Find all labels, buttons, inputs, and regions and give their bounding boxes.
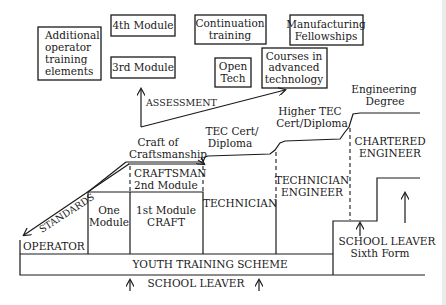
box-text: 4th Module: [112, 19, 173, 31]
cell-technician-engineer-label: TECHNICIAN: [275, 174, 349, 186]
box-text-line: operator: [45, 41, 92, 53]
box-text-line: Manufacturing: [286, 18, 366, 30]
box-text-line: Additional: [44, 29, 100, 41]
box-text-line: training: [45, 53, 88, 65]
assessment-label: ASSESSMENT: [145, 97, 217, 108]
career-progression-diagram: Additional operator training elements 4t…: [0, 0, 446, 305]
school-leaver-label: SCHOOL LEAVER: [148, 277, 246, 289]
cell-craftsman-label: 2nd Module: [134, 179, 198, 191]
box-text-line: advanced: [269, 61, 320, 73]
stage-label-engineering-degree: Degree: [366, 95, 405, 107]
cell-first-module-label: CRAFT: [147, 216, 185, 228]
cell-craftsman-label: CRAFTSMAN: [134, 167, 207, 179]
box-text-line: Open: [219, 60, 248, 72]
cell-first-module-label: 1st Module: [136, 204, 196, 216]
assessment-arrow: ASSESSMENT: [141, 89, 285, 127]
stage-label-tec-cert: Diploma: [208, 137, 252, 149]
box-text: 3rd Module: [112, 61, 174, 73]
cell-chartered-engineer-label: CHARTERED: [354, 135, 425, 147]
youth-training-scheme-label: YOUTH TRAINING SCHEME: [131, 258, 287, 270]
box-text-line: Continuation: [195, 17, 264, 29]
box-courses-advanced-technology: Courses in advanced technology: [262, 48, 327, 88]
box-continuation-training: Continuation training: [195, 15, 266, 44]
stage-label-craft: Craftsmanship: [129, 148, 207, 160]
cell-one-module-label: One: [98, 204, 120, 216]
box-additional-operator-training: Additional operator training elements: [38, 27, 101, 80]
standards-label: STANDARDS: [37, 191, 96, 235]
box-open-tech: Open Tech: [215, 58, 251, 87]
cell-chartered-engineer-label: ENGINEER: [359, 147, 422, 159]
school-leaver-sixth-form-label: SCHOOL LEAVER: [339, 235, 437, 247]
cell-operator-label: OPERATOR: [23, 240, 86, 252]
school-leaver-sixth-form-label: Sixth Form: [351, 247, 410, 259]
box-manufacturing-fellowships: Manufacturing Fellowships: [286, 15, 366, 45]
stage-label-higher-tec: Higher TEC: [278, 105, 341, 117]
stage-label-higher-tec: Cert/Diploma: [276, 117, 347, 129]
arrow-diagonal-icon: [141, 90, 285, 127]
box-text-line: training: [209, 29, 252, 41]
box-text-line: technology: [265, 73, 324, 85]
stage-label-engineering-degree: Engineering: [351, 83, 417, 95]
box-text-line: Fellowships: [295, 30, 358, 42]
cell-technician-engineer-label: ENGINEER: [281, 186, 344, 198]
box-text-line: elements: [45, 65, 93, 77]
cell-one-module-label: Module: [89, 216, 129, 228]
stage-label-tec-cert: TEC Cert/: [205, 125, 259, 137]
stage-label-craft: Craft of: [138, 136, 180, 148]
sixth-form-steps: [333, 178, 420, 275]
box-text-line: Tech: [220, 72, 245, 84]
cell-technician-label: TECHNICIAN: [203, 197, 277, 209]
box-fourth-module: 4th Module: [111, 15, 175, 36]
box-third-module: 3rd Module: [111, 57, 175, 78]
